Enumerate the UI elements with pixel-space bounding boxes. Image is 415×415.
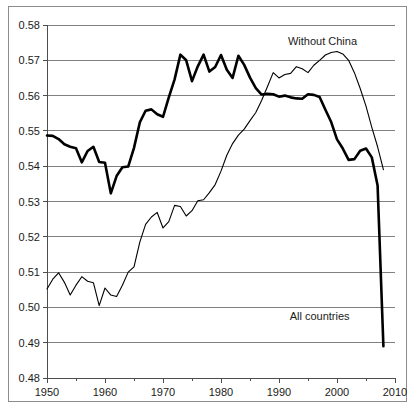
without-china-label: Without China xyxy=(288,35,358,47)
y-tick-label: 0.50 xyxy=(19,301,40,313)
x-tick-label: 1990 xyxy=(267,386,291,398)
chart-figure: 0.580.570.560.550.540.530.520.510.500.49… xyxy=(0,0,415,415)
y-tick-label: 0.55 xyxy=(19,125,40,137)
x-tick-label: 2000 xyxy=(325,386,349,398)
y-tick-label: 0.58 xyxy=(19,19,40,31)
y-tick-label: 0.57 xyxy=(19,54,40,66)
y-tick-label: 0.54 xyxy=(19,160,40,172)
all-countries-label: All countries xyxy=(290,310,350,322)
line-chart: 0.580.570.560.550.540.530.520.510.500.49… xyxy=(0,0,415,415)
series-line-all-countries xyxy=(47,55,383,347)
y-tick-label: 0.56 xyxy=(19,90,40,102)
x-tick-label: 2010 xyxy=(383,386,407,398)
x-tick-label: 1980 xyxy=(209,386,233,398)
series-line-without-china xyxy=(47,51,383,305)
x-tick-label: 1960 xyxy=(93,386,117,398)
y-tick-label: 0.48 xyxy=(19,372,40,384)
x-tick-label: 1970 xyxy=(151,386,175,398)
y-tick-label: 0.52 xyxy=(19,231,40,243)
y-tick-label: 0.53 xyxy=(19,196,40,208)
y-tick-label: 0.51 xyxy=(19,266,40,278)
x-tick-label: 1950 xyxy=(35,386,59,398)
y-tick-label: 0.49 xyxy=(19,337,40,349)
